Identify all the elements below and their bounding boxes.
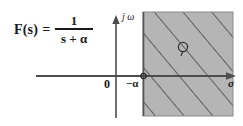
transfer-function-formula: F(s) = 1 s + α (14, 14, 93, 45)
formula-denominator: s + α (56, 30, 92, 45)
region-of-convergence (143, 12, 233, 116)
jw-axis (112, 15, 119, 118)
formula-numerator: 1 (65, 14, 84, 28)
formula-lhs: F(s) (14, 22, 38, 38)
hatching-pattern (143, 12, 233, 116)
formula-equals-sign: = (42, 22, 50, 38)
jw-axis-label: j ω (122, 12, 134, 22)
formula-fraction: 1 s + α (55, 14, 93, 45)
pole-location-label: −α (126, 78, 138, 89)
roc-figure: F(s) = 1 s + α j ω σ 0 −α (0, 0, 243, 126)
origin-label: 0 (104, 78, 110, 90)
sigma-axis-label: σ (228, 78, 234, 89)
